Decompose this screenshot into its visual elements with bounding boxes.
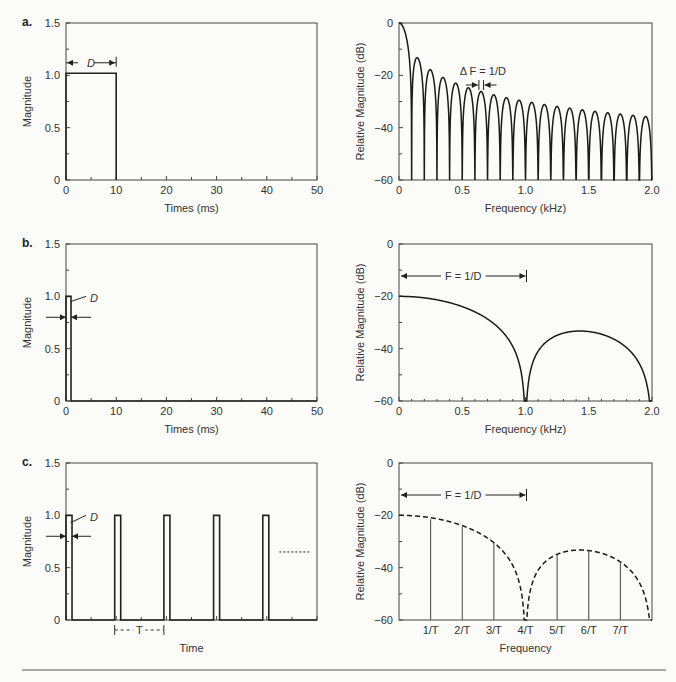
time-y-axis-label: Magnitude <box>21 76 33 127</box>
pulse-b: D <box>46 292 317 401</box>
y-tick-label: 0.5 <box>45 562 60 574</box>
x-tick-label: 0.5 <box>455 405 470 417</box>
y-tick-label: −40 <box>374 562 393 574</box>
x-tick-label: 10 <box>110 184 122 196</box>
y-tick-label: 1.5 <box>45 17 60 29</box>
spectrum-plot-frame <box>399 463 652 620</box>
time-y-axis-label: Magnitude <box>21 516 33 567</box>
period-label: T <box>136 624 143 636</box>
x-tick-label: 1.5 <box>581 184 596 196</box>
freq-y-axis-label: Relative Magnitude (dB) <box>354 42 366 160</box>
y-tick-label: −60 <box>374 174 393 186</box>
x-tick-label: 30 <box>210 405 222 417</box>
time-x-axis-label: Times (ms) <box>164 423 219 435</box>
harmonic-tick-label: 2/T <box>454 624 470 636</box>
y-tick-label: 1.5 <box>45 457 60 469</box>
f-label: F = 1/D <box>445 489 481 501</box>
spectrum-envelope-c <box>399 515 652 620</box>
y-tick-label: 1.0 <box>45 509 60 521</box>
x-tick-label: 20 <box>160 184 172 196</box>
panel-label: b. <box>22 236 33 250</box>
time-plot-frame <box>66 463 317 620</box>
x-tick-label: 40 <box>261 184 273 196</box>
y-tick-label: 0 <box>387 17 393 29</box>
x-tick-label: 0 <box>396 405 402 417</box>
spectrum-plot-frame <box>399 244 652 401</box>
harmonic-tick-label: 1/T <box>423 624 439 636</box>
y-tick-label: −20 <box>374 509 393 521</box>
y-tick-label: 0 <box>54 395 60 407</box>
x-tick-label: 0 <box>396 184 402 196</box>
duration-label: D <box>87 57 95 69</box>
x-tick-label: 30 <box>210 184 222 196</box>
time-x-axis-label: Time <box>179 642 203 654</box>
freq-y-axis-label: Relative Magnitude (dB) <box>354 482 366 600</box>
y-tick-label: 0.5 <box>45 343 60 355</box>
f-equals-1-over-d-annotation: F = 1/D <box>401 489 527 501</box>
x-tick-label: 50 <box>311 184 323 196</box>
y-tick-label: 0 <box>387 238 393 250</box>
figure-canvas: 00.51.01.501020304050Times (ms)Magnitude… <box>0 0 676 682</box>
x-tick-label: 1.0 <box>518 405 533 417</box>
spectrum-b <box>399 296 652 401</box>
harmonic-tick-label: 3/T <box>486 624 502 636</box>
duration-label: D <box>90 292 98 304</box>
delta-f-annotation: Δ F = 1/D <box>460 65 506 90</box>
y-tick-label: 0 <box>54 174 60 186</box>
time-plot-frame <box>66 23 317 180</box>
x-tick-label: 10 <box>110 405 122 417</box>
spectrum-a <box>399 23 652 180</box>
duration-label: D <box>90 511 98 523</box>
y-tick-label: −20 <box>374 69 393 81</box>
f-label: F = 1/D <box>445 270 481 282</box>
x-tick-label: 2.0 <box>644 184 659 196</box>
y-tick-label: −60 <box>374 395 393 407</box>
freq-x-axis-label: Frequency (kHz) <box>485 202 566 214</box>
pulse-a: D <box>66 56 116 180</box>
time-plot-frame <box>66 244 317 401</box>
y-tick-label: 0.5 <box>45 122 60 134</box>
y-tick-label: 1.0 <box>45 69 60 81</box>
x-tick-label: 0 <box>63 184 69 196</box>
f-equals-1-over-d-annotation: F = 1/D <box>401 270 527 282</box>
x-tick-label: 0.5 <box>455 184 470 196</box>
harmonic-tick-label: 4/T <box>518 624 534 636</box>
panel-label: a. <box>22 15 32 29</box>
y-tick-label: 0 <box>54 614 60 626</box>
x-tick-label: 1.0 <box>518 184 533 196</box>
harmonic-tick-label: 7/T <box>612 624 628 636</box>
x-tick-label: 20 <box>160 405 172 417</box>
y-tick-label: 0 <box>387 457 393 469</box>
harmonic-tick-label: 6/T <box>581 624 597 636</box>
y-tick-label: −40 <box>374 122 393 134</box>
y-tick-label: −40 <box>374 343 393 355</box>
freq-x-axis-label: Frequency (kHz) <box>485 423 566 435</box>
x-tick-label: 50 <box>311 405 323 417</box>
time-y-axis-label: Magnitude <box>21 297 33 348</box>
x-tick-label: 2.0 <box>644 405 659 417</box>
panel-label: c. <box>22 455 32 469</box>
harmonic-tick-label: 5/T <box>549 624 565 636</box>
y-tick-label: 1.0 <box>45 290 60 302</box>
y-tick-label: −20 <box>374 290 393 302</box>
freq-y-axis-label: Relative Magnitude (dB) <box>354 263 366 381</box>
x-tick-label: 40 <box>261 405 273 417</box>
pulse-train-c: DT <box>46 511 317 636</box>
time-x-axis-label: Times (ms) <box>164 202 219 214</box>
y-tick-label: 1.5 <box>45 238 60 250</box>
x-tick-label: 0 <box>63 405 69 417</box>
delta-f-label: Δ F = 1/D <box>460 65 506 77</box>
x-tick-label: 1.5 <box>581 405 596 417</box>
y-tick-label: −60 <box>374 614 393 626</box>
freq-x-axis-label: Frequency <box>500 642 552 654</box>
